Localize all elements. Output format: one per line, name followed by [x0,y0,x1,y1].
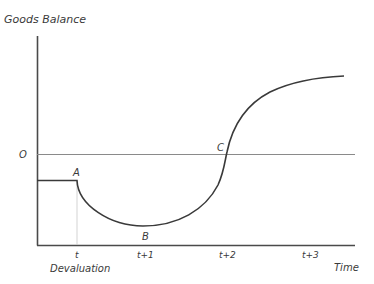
tick-t2: t+2 [219,250,236,260]
tick-t1: t+1 [137,250,154,260]
tick-t: t [75,250,79,260]
point-c-label: C [217,142,224,153]
devaluation-label: Devaluation [50,263,110,274]
x-axis-title: Time [334,262,359,273]
j-curve-diagram: Goods Balance O A B C t t+1 t+2 t+3 Deva… [0,0,374,284]
tick-t3: t+3 [302,250,319,260]
origin-label: O [19,149,27,160]
point-a-label: A [72,167,80,178]
y-axis-title: Goods Balance [4,13,86,26]
goods-balance-curve [37,76,344,226]
point-b-label: B [142,231,149,242]
